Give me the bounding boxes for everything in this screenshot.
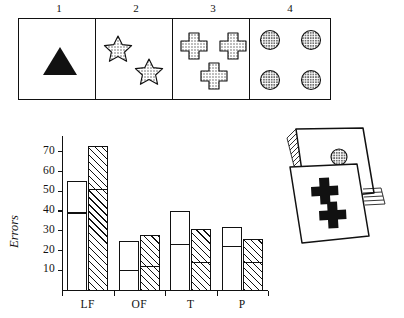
circle-icon-group: [250, 19, 332, 101]
y-tick-label: 60: [43, 164, 55, 176]
dot-icon-tl: [261, 31, 280, 50]
stimulus-card-3: 3: [172, 18, 254, 100]
x-tick-mark: [268, 291, 269, 296]
errors-bar-chart: Errors 10203040506070 LFOFTP: [18, 132, 268, 318]
stimulus-card-3-frame: [172, 18, 254, 100]
dot-icon-tr: [302, 31, 321, 50]
x-tick-mark: [62, 291, 63, 296]
stimulus-card-2-frame: [95, 18, 177, 100]
cross-icon-c: [201, 63, 227, 89]
star-icon-a: [104, 36, 131, 61]
stimulus-card-1-frame: [18, 18, 100, 100]
y-tick-mark: [58, 250, 63, 251]
y-tick-mark: [58, 210, 63, 211]
bar-P-open: [222, 227, 242, 290]
bar-divider-OF-hatched: [140, 266, 160, 267]
bar-T-open: [170, 211, 190, 290]
stimulus-card-3-number: 3: [172, 2, 254, 14]
y-axis-line: [62, 136, 63, 290]
y-tick-mark: [58, 230, 63, 231]
cross-icon-a: [181, 33, 207, 59]
bar-divider-P-hatched: [243, 262, 263, 263]
bar-divider-T-hatched: [191, 262, 211, 263]
triangle-icon: [41, 45, 79, 77]
x-tick-label-P: P: [217, 298, 267, 310]
x-tick-label-LF: LF: [63, 298, 113, 310]
y-tick-label: 30: [43, 223, 55, 235]
y-axis-label: Errors: [7, 215, 22, 248]
card-stack-svg: [250, 126, 404, 256]
x-tick-label-T: T: [166, 298, 216, 310]
y-tick-label: 40: [43, 203, 55, 215]
bar-LF-open: [67, 181, 87, 290]
stimulus-card-2: 2: [95, 18, 177, 100]
stimulus-card-row: 1 2: [0, 0, 404, 122]
star-icon-group: [96, 19, 178, 101]
x-tick-mark: [165, 291, 166, 296]
y-tick-mark: [58, 270, 63, 271]
x-tick-mark: [114, 291, 115, 296]
cross-icon-group: [173, 19, 255, 101]
bar-OF-hatched: [140, 235, 160, 290]
dot-icon-bl: [261, 71, 280, 90]
bar-OF-open: [119, 241, 139, 290]
x-tick-label-OF: OF: [114, 298, 164, 310]
bar-T-hatched: [191, 229, 211, 290]
figure-panel: 1 2: [0, 0, 404, 318]
y-tick-label: 50: [43, 183, 55, 195]
y-tick-mark: [58, 171, 63, 172]
y-tick-mark: [58, 191, 63, 192]
stimulus-card-1-number: 1: [18, 2, 100, 14]
y-tick-label: 20: [43, 243, 55, 255]
stimulus-card-4-frame: [249, 18, 331, 100]
x-tick-mark: [217, 291, 218, 296]
stack-dot-icon: [331, 149, 347, 165]
bar-divider-OF-open: [119, 270, 139, 271]
stimulus-card-2-number: 2: [95, 2, 177, 14]
stimulus-card-4: 4: [249, 18, 331, 100]
bar-divider-LF-open: [67, 212, 87, 213]
star-icon-b: [135, 59, 162, 84]
bar-LF-hatched: [88, 146, 108, 290]
cross-icon-b: [220, 33, 246, 59]
bar-divider-LF-hatched: [88, 189, 108, 190]
y-tick-mark: [58, 151, 63, 152]
bar-divider-T-open: [170, 244, 190, 245]
card-stack-illustration: [250, 126, 404, 256]
y-tick-label: 70: [43, 144, 55, 156]
y-tick-label: 10: [43, 262, 55, 274]
dot-icon-br: [302, 71, 321, 90]
bar-divider-P-open: [222, 246, 242, 247]
stimulus-card-1: 1: [18, 18, 100, 100]
stimulus-card-4-number: 4: [249, 2, 331, 14]
